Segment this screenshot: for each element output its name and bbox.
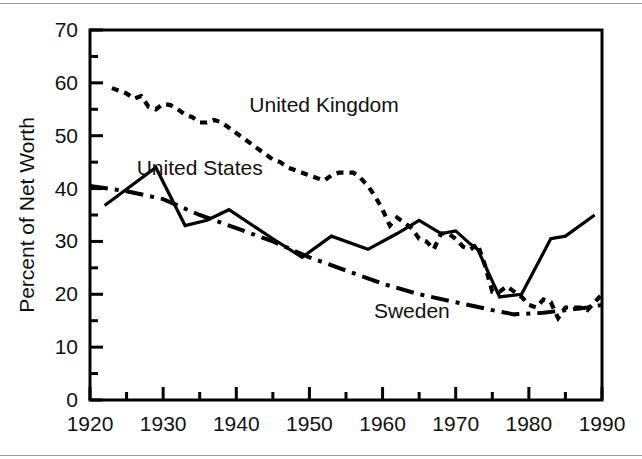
series-path-sweden [90,186,602,314]
series-path-united-states [105,167,595,297]
x-tick-label-1920: 1920 [67,412,114,435]
chart-figure: 010203040506070 192019301940195019601970… [0,0,642,459]
data-series-group [90,88,602,318]
x-tick-label-1950: 1950 [286,412,333,435]
y-tick-label-0: 0 [66,388,78,411]
plot-frame [90,30,602,400]
y-axis-tick-labels: 010203040506070 [55,18,78,411]
series-label-sweden: Sweden [374,299,450,322]
line-chart: 010203040506070 192019301940195019601970… [0,0,642,459]
y-tick-label-10: 10 [55,335,78,358]
series-label-united-states: United States [137,156,263,179]
y-axis-title: Percent of Net Worth [15,117,38,313]
x-axis-tick-labels: 19201930194019501960197019801990 [67,412,626,435]
y-tick-label-20: 20 [55,282,78,305]
x-tick-label-1940: 1940 [213,412,260,435]
x-tick-label-1990: 1990 [579,412,626,435]
x-tick-label-1930: 1930 [140,412,187,435]
x-tick-label-1980: 1980 [505,412,552,435]
series-label-united-kingdom: United Kingdom [249,93,398,116]
y-tick-label-70: 70 [55,18,78,41]
x-tick-label-1960: 1960 [359,412,406,435]
y-tick-label-30: 30 [55,229,78,252]
y-tick-label-40: 40 [55,177,78,200]
x-tick-label-1970: 1970 [432,412,479,435]
y-tick-label-60: 60 [55,71,78,94]
y-tick-label-50: 50 [55,124,78,147]
